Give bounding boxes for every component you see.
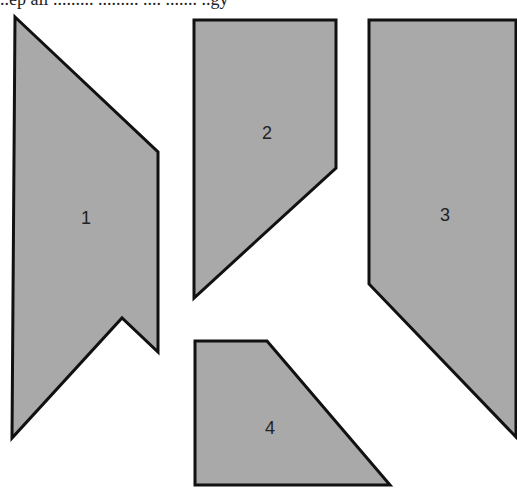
piece-3-shape (369, 20, 516, 437)
piece-4-label: 4 (265, 418, 275, 438)
piece-3: 3 (369, 20, 516, 437)
piece-2: 2 (194, 20, 336, 298)
piece-3-label: 3 (440, 205, 450, 225)
piece-2-shape (194, 20, 336, 298)
piece-2-label: 2 (262, 123, 272, 143)
piece-1: 1 (12, 17, 158, 438)
piece-4-shape (195, 341, 390, 485)
puzzle-pieces-diagram: 1 2 3 4 (0, 0, 517, 492)
piece-1-label: 1 (81, 208, 91, 228)
piece-4: 4 (195, 341, 390, 485)
